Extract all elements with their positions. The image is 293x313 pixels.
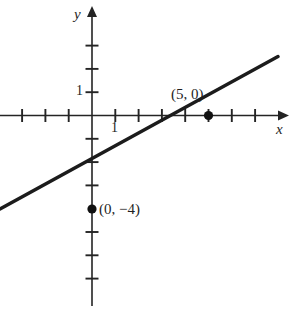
coordinate-plane-figure: y x 1 1 (5, 0) (0, −4): [0, 0, 293, 313]
x-axis-label: x: [276, 122, 283, 137]
plotted-line: [0, 57, 278, 209]
y-axis-label: y: [74, 7, 81, 22]
point-marker-0-neg4: [87, 204, 96, 213]
graph-canvas: [0, 0, 293, 313]
point-marker-5-0: [204, 111, 213, 120]
x-axis-tick-label-1: 1: [111, 121, 118, 135]
point-label-0-neg4: (0, −4): [99, 202, 140, 217]
point-label-5-0: (5, 0): [171, 87, 204, 102]
y-axis-tick-label-1: 1: [76, 84, 83, 98]
x-axis-group: [0, 109, 289, 122]
y-axis-arrowhead: [87, 6, 97, 17]
x-axis-arrowhead: [278, 111, 289, 121]
